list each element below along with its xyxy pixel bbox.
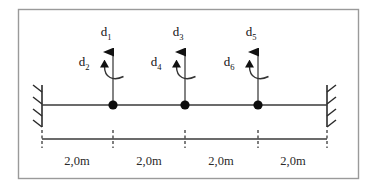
beam-node [108,100,117,109]
dimension-label-3: 2,0m [208,154,234,168]
dimension-label-4: 2,0m [280,154,306,168]
dimension-label-1: 2,0m [64,154,90,168]
beam-node [253,100,262,109]
beam-diagram-figure: d1 d2 d3 d4 d5 d [0,0,367,187]
dimension-label-2: 2,0m [136,154,162,168]
beam-node [180,100,189,109]
